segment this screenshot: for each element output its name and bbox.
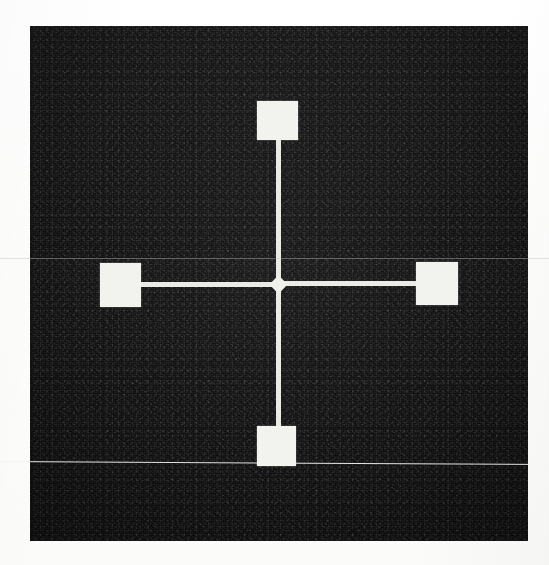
center-junction (269, 275, 287, 293)
pad-top (257, 101, 298, 140)
pad-bottom (257, 426, 296, 466)
trace-left (139, 282, 281, 287)
trace-bottom (276, 283, 281, 428)
trace-right (277, 281, 419, 286)
pad-left (100, 263, 141, 307)
pad-right (416, 262, 458, 305)
trace-top (276, 138, 281, 286)
micrograph-figure (0, 0, 549, 565)
device-pattern (0, 0, 549, 565)
